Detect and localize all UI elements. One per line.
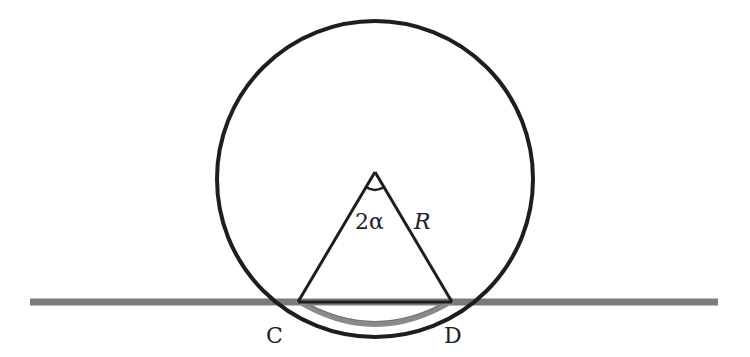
wheel-circle xyxy=(217,21,533,337)
point-d-label: D xyxy=(444,323,462,348)
radius-line-right xyxy=(375,172,452,302)
angle-arc-icon xyxy=(366,187,384,190)
point-c-label: C xyxy=(266,323,283,348)
diagram-canvas: 2α R C D xyxy=(0,0,750,357)
radius-line-left xyxy=(298,172,375,302)
radius-label: R xyxy=(413,209,431,234)
angle-label: 2α xyxy=(355,209,384,234)
